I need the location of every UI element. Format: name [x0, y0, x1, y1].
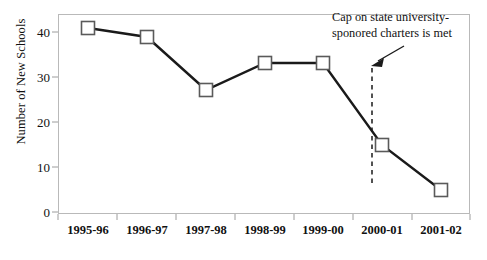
y-tick-label-40: 40 [18, 26, 50, 39]
chart-canvas: Number of New Schools 40 30 20 10 0 1995… [0, 0, 487, 260]
annotation-line-1: Cap on state university- [332, 9, 482, 25]
x-axis-ticks [58, 214, 470, 220]
x-tick-label-2001-02: 2001-02 [406, 224, 476, 237]
annotation-cap-note: Cap on state university- sponored charte… [332, 9, 482, 41]
plot-area [58, 14, 470, 214]
y-tick-label-30: 30 [18, 71, 50, 84]
y-tick-label-20: 20 [18, 116, 50, 129]
annotation-line-2: sponored charters is met [332, 25, 482, 41]
y-tick-label-10: 10 [18, 161, 50, 174]
y-tick-label-0: 0 [18, 206, 50, 219]
